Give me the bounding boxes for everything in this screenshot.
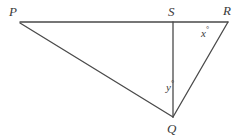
- degree-symbol-y: °: [171, 79, 174, 88]
- vertex-label-Q: Q: [167, 122, 176, 135]
- vertex-label-S: S: [168, 5, 175, 18]
- geometry-canvas: [0, 0, 245, 140]
- degree-symbol-x: °: [206, 25, 209, 34]
- vertex-label-R: R: [223, 4, 231, 17]
- segment-PQ: [20, 23, 173, 117]
- angle-label-y: y°: [166, 80, 174, 93]
- angle-label-x: x°: [201, 26, 209, 39]
- vertex-label-P: P: [9, 5, 17, 18]
- geometry-figure: P S R Q x° y°: [0, 0, 245, 140]
